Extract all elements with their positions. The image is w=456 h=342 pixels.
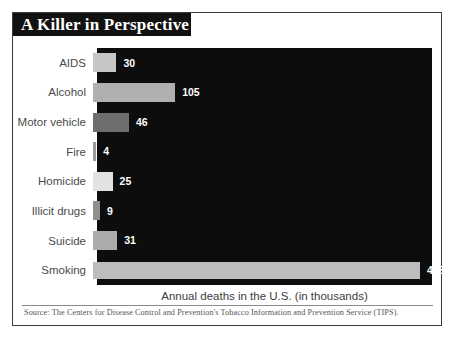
figure-root: A Killer in Perspective AIDS30Alcohol105… bbox=[0, 0, 456, 342]
bar-category-label: Alcohol bbox=[13, 86, 93, 98]
bar-category-label: Motor vehicle bbox=[13, 116, 93, 128]
bar-value-label: 30 bbox=[116, 58, 135, 69]
bar-row: Fire4 bbox=[13, 137, 432, 167]
bar-category-label: Fire bbox=[13, 146, 93, 158]
bar-category-label: AIDS bbox=[13, 57, 93, 69]
bar-row: AIDS30 bbox=[13, 48, 432, 78]
bar-rows: AIDS30Alcohol105Motor vehicle46Fire4Homi… bbox=[13, 48, 432, 285]
bar bbox=[93, 201, 100, 220]
bar bbox=[93, 53, 116, 72]
bar-row: Smoking418 bbox=[13, 255, 432, 285]
x-axis-caption: Annual deaths in the U.S. (in thousands) bbox=[97, 290, 432, 302]
bar-track: 105 bbox=[93, 78, 432, 108]
bar-row: Motor vehicle46 bbox=[13, 107, 432, 137]
bar-category-label: Suicide bbox=[13, 235, 93, 247]
bar-track: 31 bbox=[93, 226, 432, 256]
bar bbox=[93, 83, 175, 102]
bar-value-label: 9 bbox=[100, 206, 113, 217]
bar-track: 4 bbox=[93, 137, 432, 167]
bar-value-label: 105 bbox=[175, 87, 200, 98]
bar bbox=[93, 172, 113, 191]
bar bbox=[93, 231, 117, 250]
source-note: Source: The Centers for Disease Control … bbox=[24, 308, 436, 317]
bar-value-label: 4 bbox=[96, 146, 109, 157]
bar-track: 46 bbox=[93, 107, 432, 137]
bar-track: 25 bbox=[93, 167, 432, 197]
bar-track: 418 bbox=[93, 255, 445, 285]
bar bbox=[93, 262, 420, 279]
bar-track: 30 bbox=[93, 48, 432, 78]
title-banner: A Killer in Perspective bbox=[13, 13, 191, 36]
bar-value-label: 31 bbox=[117, 235, 136, 246]
bar-row: Illicit drugs9 bbox=[13, 196, 432, 226]
bar-row: Alcohol105 bbox=[13, 78, 432, 108]
bar-value-label: 418 bbox=[420, 265, 445, 276]
bar-row: Homicide25 bbox=[13, 167, 432, 197]
bar-row: Suicide31 bbox=[13, 226, 432, 256]
bar-track: 9 bbox=[93, 196, 432, 226]
bar bbox=[93, 113, 129, 132]
bar-value-label: 46 bbox=[129, 117, 148, 128]
bar-value-label: 25 bbox=[113, 176, 132, 187]
page-title: A Killer in Perspective bbox=[13, 16, 189, 33]
bar-category-label: Illicit drugs bbox=[13, 205, 93, 217]
bar-category-label: Smoking bbox=[13, 264, 93, 276]
bar-category-label: Homicide bbox=[13, 175, 93, 187]
source-divider bbox=[22, 305, 433, 306]
